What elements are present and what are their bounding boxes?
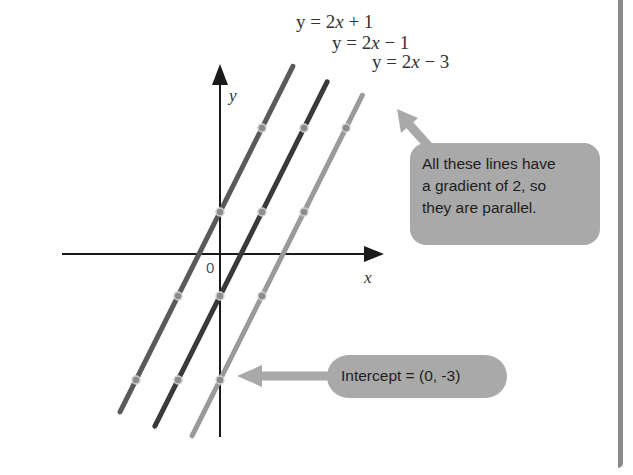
plotted-point xyxy=(258,292,266,300)
eq-var: x xyxy=(411,51,419,72)
eq-prefix: y = 2 xyxy=(296,11,335,32)
plotted-point xyxy=(342,124,350,132)
eq-var: x xyxy=(371,32,379,53)
plotted-point xyxy=(216,208,224,216)
callout-line: they are parallel. xyxy=(422,197,600,219)
eq-var: x xyxy=(335,11,343,32)
graph-diagram: y = 2x + 1 y = 2x − 1 y = 2x − 3 y x 0 A… xyxy=(0,0,633,475)
x-axis-arrow-icon xyxy=(364,246,384,262)
x-axis xyxy=(62,246,384,262)
eq-suffix: − 3 xyxy=(420,51,450,72)
origin-label: 0 xyxy=(206,259,214,276)
intercept-callout-arrow xyxy=(237,365,330,387)
plotted-point xyxy=(174,292,182,300)
eq-suffix: + 1 xyxy=(344,11,374,32)
y-axis-label: y xyxy=(229,86,237,106)
callout-line: All these lines have xyxy=(422,153,600,175)
callout-line: a gradient of 2, so xyxy=(422,175,600,197)
plotted-point xyxy=(258,124,266,132)
y-axis-arrow-icon xyxy=(212,64,228,85)
eq-prefix: y = 2 xyxy=(372,51,411,72)
plotted-point xyxy=(216,376,224,384)
x-axis-label: x xyxy=(364,268,372,288)
plotted-point xyxy=(258,208,266,216)
equation-label-2x-minus-3: y = 2x − 3 xyxy=(372,51,449,73)
parallel-callout: All these lines have a gradient of 2, so… xyxy=(410,143,600,245)
page-frame-border xyxy=(618,0,623,468)
intercept-text: Intercept = (0, -3) xyxy=(341,367,460,384)
eq-suffix: − 1 xyxy=(380,32,410,53)
eq-prefix: y = 2 xyxy=(332,32,371,53)
plotted-point xyxy=(300,208,308,216)
plotted-point xyxy=(216,292,224,300)
graph-line-2x-plus-1 xyxy=(120,66,293,412)
plotted-point xyxy=(300,124,308,132)
plotted-point xyxy=(174,376,182,384)
intercept-callout: Intercept = (0, -3) xyxy=(327,355,507,398)
equation-label-2x-plus-1: y = 2x + 1 xyxy=(296,11,373,33)
plotted-point xyxy=(132,376,140,384)
